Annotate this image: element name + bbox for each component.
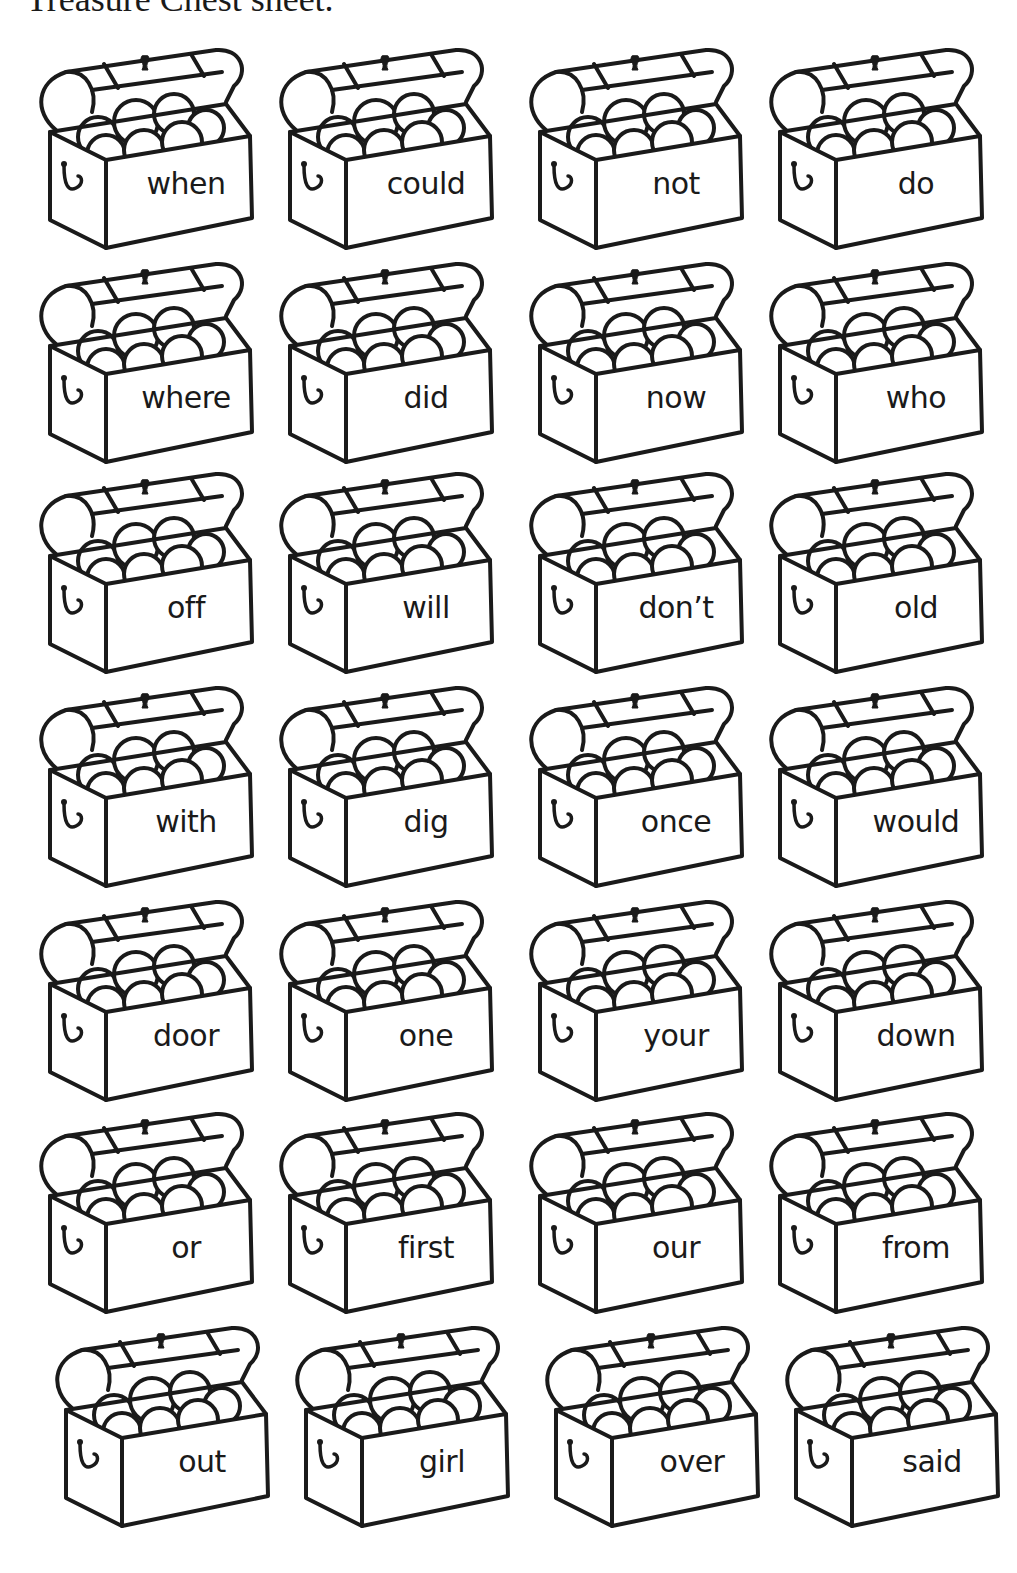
treasure-chest-our: our xyxy=(516,1106,748,1314)
treasure-chest-one: one xyxy=(266,894,498,1102)
treasure-chest-where: where xyxy=(26,256,258,464)
chest-word: or xyxy=(126,1230,246,1265)
chest-word: door xyxy=(126,1018,246,1053)
chest-word: first xyxy=(366,1230,486,1265)
treasure-chest-icon xyxy=(756,42,988,250)
chest-word: do xyxy=(856,166,976,201)
treasure-chest-icon xyxy=(772,1320,1004,1528)
treasure-chest-icon xyxy=(266,894,498,1102)
treasure-chest-did: did xyxy=(266,256,498,464)
chest-word: with xyxy=(126,804,246,839)
chest-word: once xyxy=(616,804,736,839)
treasure-chest-icon xyxy=(516,42,748,250)
chest-word: when xyxy=(126,166,246,201)
chest-word: would xyxy=(856,804,976,839)
treasure-chest-over: over xyxy=(532,1320,764,1528)
chest-word: our xyxy=(616,1230,736,1265)
treasure-chest-said: said xyxy=(772,1320,1004,1528)
chest-word: did xyxy=(366,380,486,415)
treasure-chest-icon xyxy=(26,42,258,250)
chest-word: who xyxy=(856,380,976,415)
treasure-chest-when: when xyxy=(26,42,258,250)
chest-word: your xyxy=(616,1018,736,1053)
treasure-chest-your: your xyxy=(516,894,748,1102)
treasure-chest-not: not xyxy=(516,42,748,250)
chest-word: will xyxy=(366,590,486,625)
chest-word: could xyxy=(366,166,486,201)
chest-word: down xyxy=(856,1018,976,1053)
treasure-chest-first: first xyxy=(266,1106,498,1314)
chest-word: where xyxy=(126,380,246,415)
treasure-chest-from: from xyxy=(756,1106,988,1314)
treasure-chest-icon xyxy=(26,680,258,888)
chest-word: said xyxy=(872,1444,992,1479)
treasure-chest-icon xyxy=(756,466,988,674)
treasure-chest-do: do xyxy=(756,42,988,250)
treasure-chest-icon xyxy=(516,680,748,888)
treasure-chest-with: with xyxy=(26,680,258,888)
chest-word: one xyxy=(366,1018,486,1053)
treasure-chest-icon xyxy=(266,42,498,250)
treasure-chest-icon xyxy=(26,256,258,464)
treasure-chest-dont: don’t xyxy=(516,466,748,674)
treasure-chest-icon xyxy=(516,894,748,1102)
treasure-chest-now: now xyxy=(516,256,748,464)
treasure-chest-door: door xyxy=(26,894,258,1102)
treasure-chest-could: could xyxy=(266,42,498,250)
chest-word: over xyxy=(632,1444,752,1479)
treasure-chest-icon xyxy=(266,680,498,888)
treasure-chest-down: down xyxy=(756,894,988,1102)
chest-word: off xyxy=(126,590,246,625)
treasure-chest-girl: girl xyxy=(282,1320,514,1528)
treasure-chest-icon xyxy=(42,1320,274,1528)
treasure-chest-icon xyxy=(516,466,748,674)
treasure-chest-icon xyxy=(756,894,988,1102)
treasure-chest-icon xyxy=(516,1106,748,1314)
treasure-chest-old: old xyxy=(756,466,988,674)
treasure-chest-icon xyxy=(26,466,258,674)
treasure-chest-icon xyxy=(266,256,498,464)
treasure-chest-will: will xyxy=(266,466,498,674)
chest-word: dig xyxy=(366,804,486,839)
treasure-chest-would: would xyxy=(756,680,988,888)
treasure-chest-icon xyxy=(26,894,258,1102)
treasure-chest-off: off xyxy=(26,466,258,674)
treasure-chest-icon xyxy=(532,1320,764,1528)
chest-word: old xyxy=(856,590,976,625)
treasure-chest-icon xyxy=(756,680,988,888)
treasure-chest-icon xyxy=(756,1106,988,1314)
treasure-chest-who: who xyxy=(756,256,988,464)
treasure-chest-dig: dig xyxy=(266,680,498,888)
chest-word: from xyxy=(856,1230,976,1265)
chest-word: don’t xyxy=(616,590,736,625)
treasure-chest-icon xyxy=(266,466,498,674)
chest-word: out xyxy=(142,1444,262,1479)
page-heading: Treasure Chest sheet. xyxy=(26,0,334,20)
treasure-chest-icon xyxy=(282,1320,514,1528)
chest-word: not xyxy=(616,166,736,201)
treasure-chest-icon xyxy=(516,256,748,464)
treasure-chest-icon xyxy=(756,256,988,464)
treasure-chest-out: out xyxy=(42,1320,274,1528)
treasure-chest-once: once xyxy=(516,680,748,888)
treasure-chest-or: or xyxy=(26,1106,258,1314)
treasure-chest-icon xyxy=(266,1106,498,1314)
chest-word: girl xyxy=(382,1444,502,1479)
chest-word: now xyxy=(616,380,736,415)
treasure-chest-icon xyxy=(26,1106,258,1314)
